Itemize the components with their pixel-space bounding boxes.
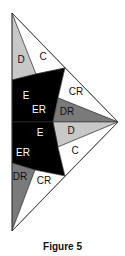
- region-label-e-top: E: [23, 90, 30, 101]
- region-label-d-bottom: D: [67, 125, 74, 136]
- region-label-dr-top: DR: [60, 106, 74, 117]
- kite-diagram: DCEERCRDRDEERCDRCR: [0, 0, 125, 240]
- region-label-c-top: C: [39, 51, 46, 62]
- region-label-c-bottom: C: [71, 145, 78, 156]
- region-label-cr-top: CR: [69, 86, 83, 97]
- figure-caption: Figure 5: [0, 241, 125, 252]
- region-label-er-top: ER: [32, 104, 46, 115]
- region-label-e-bottom: E: [37, 127, 44, 138]
- region-label-d-top: D: [17, 54, 24, 65]
- region-label-dr-bottom: DR: [13, 171, 27, 182]
- region-label-cr-bottom: CR: [37, 175, 51, 186]
- region-label-er-bottom: ER: [16, 147, 30, 158]
